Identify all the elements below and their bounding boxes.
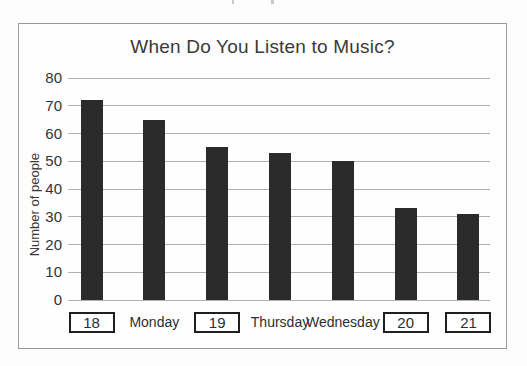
gridline-80 <box>68 78 490 79</box>
worksheet-page: When Do You Listen to Music? Number of p… <box>0 0 527 366</box>
gridline-70 <box>68 105 490 106</box>
bar-thursday <box>269 153 291 300</box>
chart-title: When Do You Listen to Music? <box>18 36 507 58</box>
plot-area <box>68 78 490 300</box>
y-tick-label-80: 80 <box>16 70 62 86</box>
y-axis-tick-labels: 01020304050607080 <box>18 78 64 300</box>
bar-19 <box>206 147 228 300</box>
scan-artifact <box>232 0 234 4</box>
x-answer-box-18: 18 <box>69 312 115 333</box>
gridline-60 <box>68 133 490 134</box>
bar-wednesday <box>332 161 354 300</box>
x-category-label-wednesday: Wednesday <box>306 312 380 333</box>
x-axis-labels: 18Monday19ThursdayWednesday2021 <box>68 312 490 333</box>
bar-21 <box>457 214 479 300</box>
y-tick-label-70: 70 <box>16 98 62 114</box>
y-tick-label-60: 60 <box>16 126 62 142</box>
y-tick-label-10: 10 <box>16 264 62 280</box>
x-category-label-thursday: Thursday <box>251 312 309 333</box>
y-tick-label-20: 20 <box>16 237 62 253</box>
y-tick-label-40: 40 <box>16 181 62 197</box>
x-answer-box-21: 21 <box>445 312 491 333</box>
y-tick-label-0: 0 <box>16 292 62 308</box>
x-answer-box-20: 20 <box>383 312 429 333</box>
bar-20 <box>395 208 417 300</box>
bar-monday <box>143 120 165 300</box>
y-tick-label-30: 30 <box>16 209 62 225</box>
y-tick-label-50: 50 <box>16 153 62 169</box>
x-category-label-monday: Monday <box>129 312 179 333</box>
x-answer-box-19: 19 <box>194 312 240 333</box>
bar-18 <box>81 100 103 300</box>
scan-artifact <box>271 0 274 4</box>
